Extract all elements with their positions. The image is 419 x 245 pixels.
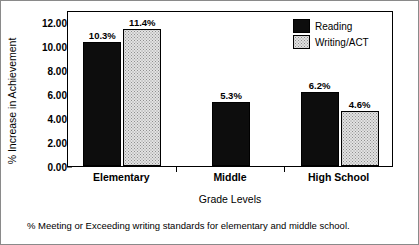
y-tick-label: 10.00 bbox=[21, 42, 67, 53]
bar-group: 5.3% bbox=[212, 102, 250, 166]
bar: 11.4% bbox=[123, 29, 161, 166]
bar-value-label: 11.4% bbox=[129, 17, 155, 28]
chart-caption: % Meeting or Exceeding writing standards… bbox=[27, 220, 350, 231]
bar-group: 6.2%4.6% bbox=[301, 92, 379, 166]
y-tick-label: 0.00 bbox=[21, 162, 67, 173]
y-tick-label: 8.00 bbox=[21, 66, 67, 77]
bar: 5.3% bbox=[212, 102, 250, 166]
legend-label-reading: Reading bbox=[315, 21, 352, 32]
legend-label-writing-act: Writing/ACT bbox=[315, 37, 369, 48]
chart-legend: Reading Writing/ACT bbox=[293, 19, 369, 49]
bar-value-label: 10.3% bbox=[89, 30, 116, 41]
bar-value-label: 4.6% bbox=[349, 99, 371, 110]
y-tick-label: 4.00 bbox=[21, 114, 67, 125]
y-tick-label: 12.00 bbox=[21, 18, 67, 29]
x-category-label: High School bbox=[308, 171, 369, 183]
bar: 10.3% bbox=[83, 42, 121, 166]
legend-item-reading: Reading bbox=[293, 19, 369, 33]
chart-figure: % Increase in Achievement 0.002.004.006.… bbox=[0, 0, 419, 245]
x-category-label: Elementary bbox=[93, 171, 150, 183]
bar-value-label: 5.3% bbox=[220, 90, 242, 101]
y-tick-label: 2.00 bbox=[21, 138, 67, 149]
legend-swatch-reading-icon bbox=[293, 19, 310, 33]
bar-group: 10.3%11.4% bbox=[83, 29, 161, 166]
y-axis-ticks: 0.002.004.006.008.0010.0012.00 bbox=[15, 11, 67, 167]
bar-value-label: 6.2% bbox=[309, 80, 331, 91]
x-axis-title: Grade Levels bbox=[67, 193, 393, 205]
bar: 6.2% bbox=[301, 92, 339, 166]
x-axis-category-labels: ElementaryMiddleHigh School bbox=[67, 171, 393, 187]
legend-item-writing-act: Writing/ACT bbox=[293, 35, 369, 49]
y-tick-label: 6.00 bbox=[21, 90, 67, 101]
x-category-label: Middle bbox=[213, 171, 246, 183]
bar: 4.6% bbox=[341, 111, 379, 166]
legend-swatch-writing-act-icon bbox=[293, 35, 310, 49]
